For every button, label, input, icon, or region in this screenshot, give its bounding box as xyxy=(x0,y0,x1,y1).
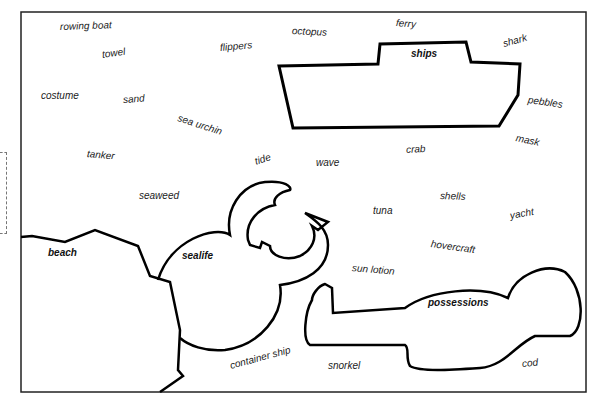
diagram-canvas xyxy=(0,0,601,409)
word-item: octopus xyxy=(292,25,328,38)
word-item: seaweed xyxy=(139,190,179,201)
word-item: rowing boat xyxy=(60,19,112,32)
word-item: tanker xyxy=(87,148,116,161)
sealife-region xyxy=(158,182,328,351)
word-item: snorkel xyxy=(328,360,360,371)
frame-border xyxy=(21,12,586,392)
word-item: costume xyxy=(41,90,79,101)
word-item: crab xyxy=(406,143,426,155)
category-beach: beach xyxy=(48,247,77,258)
possessions-region xyxy=(305,269,580,370)
word-item: sand xyxy=(123,93,145,105)
category-possessions: possessions xyxy=(428,297,489,308)
category-ships: ships xyxy=(411,48,437,59)
word-item: tuna xyxy=(373,205,392,216)
category-sealife: sealife xyxy=(182,250,213,261)
word-item: cod xyxy=(522,357,539,369)
word-item: ferry xyxy=(396,17,417,30)
word-item: wave xyxy=(316,157,339,168)
word-item: shells xyxy=(440,190,466,202)
beach-region xyxy=(21,230,183,392)
ships-region xyxy=(279,42,520,128)
